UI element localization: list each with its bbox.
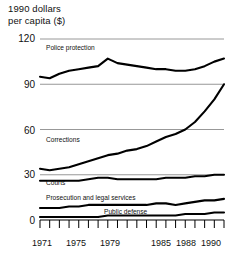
series-label-corrections: Corrections <box>46 136 80 143</box>
x-axis-ticks-group <box>40 220 224 228</box>
chart-container: 1990 dollarsper capita ($) 120 90 60 30 … <box>0 0 232 260</box>
chart-plot-area: Police protectionCorrectionsCourtsProsec… <box>0 0 232 260</box>
gridlines-group <box>40 39 224 175</box>
series-label-courts: Courts <box>46 179 66 186</box>
series-label-police-protection: Police protection <box>46 44 95 52</box>
series-label-prosecution-and-legal-services: Prosecution and legal services <box>46 194 136 202</box>
series-label-public-defense: Public defense <box>104 208 148 215</box>
